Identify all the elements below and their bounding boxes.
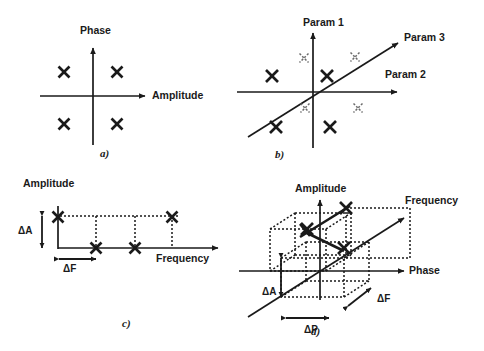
panel-d-delta-f-arrow xyxy=(348,288,371,306)
panel-c-amplitude-label: Amplitude xyxy=(23,177,74,189)
panel-d-frequency-label: Frequency xyxy=(405,194,458,206)
panel-a-marker-q2 xyxy=(59,67,70,78)
panel-d-projection-box-low xyxy=(281,242,369,297)
panel-b-marker-near-q1 xyxy=(321,70,333,82)
panel-c-delta-a-label: ΔA xyxy=(18,225,32,236)
panel-c: Amplitude Frequency ΔA ΔF c) xyxy=(18,177,218,330)
panel-b-param1-label: Param 1 xyxy=(303,16,344,28)
panel-d-amplitude-label: Amplitude xyxy=(295,182,346,194)
diagram-canvas: Amplitude Phase a) xyxy=(0,0,484,351)
panel-d: Amplitude Phase Frequency ΔA ΔP ΔF d) xyxy=(239,182,458,338)
panel-b-marker-far-q4 xyxy=(354,104,363,113)
panel-d-delta-f-label: ΔF xyxy=(377,293,390,304)
panel-b-caption-label: b) xyxy=(275,148,284,161)
panel-a-amplitude-label: Amplitude xyxy=(152,89,203,101)
panel-b-param3-label: Param 3 xyxy=(404,31,445,43)
panel-a-marker-q1 xyxy=(112,67,123,78)
panel-b-marker-far-q3 xyxy=(301,104,310,113)
panel-b-marker-near-q3 xyxy=(270,121,282,133)
panel-a-marker-q3 xyxy=(59,119,70,130)
figure-constellation-diagrams: Amplitude Phase a) xyxy=(0,0,484,351)
panel-c-caption-label: c) xyxy=(122,317,131,330)
panel-d-caption-label: d) xyxy=(311,325,320,338)
panel-c-frequency-label: Frequency xyxy=(156,252,209,264)
panel-b-marker-far-q1 xyxy=(351,53,360,62)
panel-b: Param 1 Param 2 Param 3 b) xyxy=(237,16,445,161)
panel-b-marker-far-q2 xyxy=(300,54,309,63)
panel-b-marker-near-q2 xyxy=(266,70,278,82)
panel-a: Amplitude Phase a) xyxy=(40,24,203,160)
panel-a-caption-label: a) xyxy=(100,147,109,160)
panel-c-delta-f-label: ΔF xyxy=(63,263,76,274)
panel-d-delta-a-label: ΔA xyxy=(262,286,276,297)
panel-b-param2-label: Param 2 xyxy=(385,68,426,80)
panel-a-marker-q4 xyxy=(112,119,123,130)
panel-a-phase-label: Phase xyxy=(80,24,111,36)
panel-b-marker-near-q4 xyxy=(324,121,336,133)
panel-d-phase-label: Phase xyxy=(409,264,440,276)
